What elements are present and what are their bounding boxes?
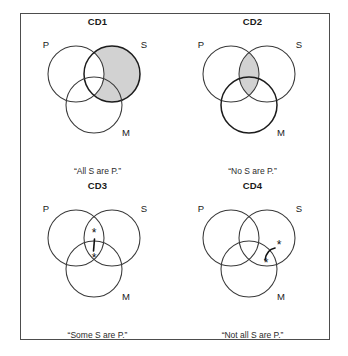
panel-cd1: CD1 P S M “All S are P.” (20, 14, 175, 177)
panel-cd4: CD4 * * P S M “Not all S are P.” (175, 178, 330, 341)
panel-cd2-caption: “No S are P.” (175, 166, 330, 176)
cd3-label-s: S (141, 203, 147, 214)
cd4-label-s: S (296, 203, 302, 214)
panel-cd2-venn-diagram: P S M (175, 26, 330, 154)
panel-cd3: CD3 * * P S M “Some S are P.” (20, 178, 175, 341)
cd2-label-m: M (277, 127, 285, 138)
cd3-label-m: M (122, 291, 130, 302)
cd2-label-p: P (198, 39, 204, 50)
cd1-circle-m (66, 77, 122, 133)
venn-figure-root: CD1 P S M “All S are P.” CD2 (0, 0, 348, 356)
cd3-asterisk-lower: * (92, 251, 97, 265)
cd3-label-p: P (43, 203, 49, 214)
cd4-asterisk-lower: * (264, 256, 269, 270)
panel-cd2: CD2 P S M “No S are P.” (175, 14, 330, 177)
cd1-label-m: M (122, 127, 130, 138)
cd3-asterisk-upper: * (92, 226, 97, 240)
panel-cd1-venn-diagram: P S M (20, 26, 175, 154)
panel-cd3-venn-diagram: * * P S M (20, 190, 175, 318)
cd1-circle-p (48, 46, 104, 102)
panel-cd3-caption: “Some S are P.” (20, 330, 175, 340)
cd2-label-s: S (296, 39, 302, 50)
cd1-label-p: P (43, 39, 49, 50)
cd4-label-p: P (198, 203, 204, 214)
cd4-asterisk-upper: * (277, 238, 282, 252)
panel-cd4-caption: “Not all S are P.” (175, 330, 330, 340)
cd4-circle-p (203, 210, 259, 266)
cd3-connector-line (94, 239, 95, 251)
panel-cd4-venn-diagram: * * P S M (175, 190, 330, 318)
cd1-label-s: S (141, 39, 147, 50)
cd4-label-m: M (277, 291, 285, 302)
panel-cd1-caption: “All S are P.” (20, 166, 175, 176)
cd4-circle-m (221, 241, 277, 297)
